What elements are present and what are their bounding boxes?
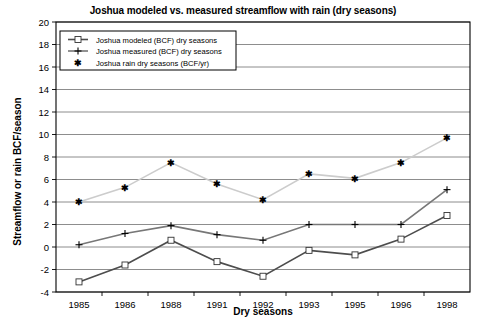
y-axis-tick-label: -4 (41, 287, 49, 298)
x-axis-tick-label: 1995 (344, 299, 365, 310)
data-point-marker (306, 247, 312, 253)
data-point-marker: ✱ (213, 179, 221, 189)
data-point-marker (260, 273, 266, 279)
data-point-marker (168, 237, 174, 243)
data-point-marker: ✱ (121, 183, 129, 193)
plot-area: -4-2024681012141618201985198619881991199… (0, 0, 486, 333)
y-axis-tick-label: 2 (44, 219, 49, 230)
y-axis-tick-label: 0 (44, 242, 49, 253)
y-axis-tick-label: 8 (44, 152, 49, 163)
data-point-marker: ✱ (74, 58, 82, 68)
y-axis-tick-label: 20 (38, 17, 49, 28)
data-point-marker: ✱ (259, 195, 267, 205)
data-point-marker: ✱ (167, 158, 175, 168)
data-point-marker (352, 252, 358, 258)
legend-label: Joshua measured (BCF) dry seasons (96, 47, 222, 56)
x-axis-tick-label: 1993 (298, 299, 319, 310)
x-axis-tick-label: 1991 (206, 299, 227, 310)
data-point-marker (122, 262, 128, 268)
chart-legend: Joshua modeled (BCF) dry seasonsJoshua m… (60, 31, 236, 70)
y-axis-tick-label: 12 (38, 107, 49, 118)
y-axis-tick-label: 14 (38, 84, 49, 95)
x-axis-tick-label: 1998 (436, 299, 457, 310)
y-axis-tick-label: -2 (41, 264, 49, 275)
y-axis-tick-label: 18 (38, 39, 49, 50)
x-axis-tick-label: 1988 (160, 299, 181, 310)
legend-label: Joshua rain dry seasons (BCF/yr) (96, 59, 210, 68)
legend-label: Joshua modeled (BCF) dry seasons (96, 36, 217, 45)
x-axis-tick-label: 1992 (252, 299, 273, 310)
data-point-marker (444, 213, 450, 219)
y-axis-tick-label: 16 (38, 62, 49, 73)
data-point-marker: ✱ (397, 158, 405, 168)
y-axis-tick-label: 6 (44, 174, 49, 185)
data-point-marker (398, 236, 404, 242)
data-point-marker: ✱ (443, 133, 451, 143)
chart-container: Joshua modeled vs. measured streamflow w… (0, 0, 486, 333)
data-point-marker: ✱ (75, 197, 83, 207)
y-axis-tick-label: 4 (44, 197, 49, 208)
x-axis-tick-label: 1985 (68, 299, 89, 310)
data-point-marker (214, 259, 220, 265)
data-point-marker (76, 279, 82, 285)
x-axis-tick-label: 1986 (114, 299, 135, 310)
data-point-marker: ✱ (351, 174, 359, 184)
data-point-marker (75, 37, 81, 43)
y-axis-tick-label: 10 (38, 129, 49, 140)
data-point-marker: ✱ (305, 169, 313, 179)
x-axis-tick-label: 1996 (390, 299, 411, 310)
